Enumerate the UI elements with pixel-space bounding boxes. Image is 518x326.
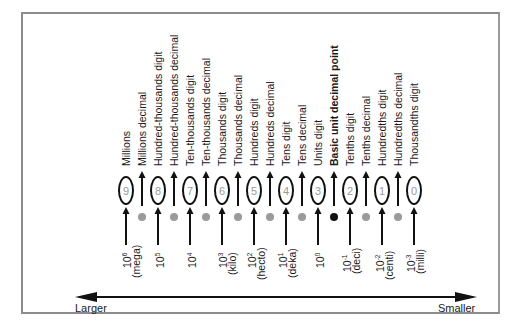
label-millions-decimal: Millions decimal xyxy=(136,92,148,166)
prefix-deci: (deci) xyxy=(351,248,362,274)
label-tens-decimal: Tens decimal xyxy=(296,105,308,166)
decimal-dot-icon xyxy=(266,213,274,221)
prefix-hecto: (hecto) xyxy=(256,247,267,280)
label-thousandths-digit: Thousandths digit xyxy=(408,83,420,166)
digit-oval-5: 5 xyxy=(246,176,262,205)
label-basic-unit-decimal-point: Basic unit decimal point xyxy=(328,45,340,166)
prefix-centi: (centi) xyxy=(384,251,395,280)
decimal-dot-icon xyxy=(202,213,210,221)
smaller-label: Smaller xyxy=(438,302,475,314)
label-hundredths-decimal: Hundredths decimal xyxy=(392,73,404,166)
label-ten-thousands-digit: Ten-thousands digit xyxy=(184,75,196,166)
decimal-dot-icon xyxy=(298,213,306,221)
label-hundredths-digit: Hundredths digit xyxy=(376,90,388,166)
prefix-deka: (deka) xyxy=(287,248,298,278)
decimal-dot-icon xyxy=(362,213,370,221)
arrow-left-icon xyxy=(75,292,97,302)
basic-unit-decimal-point-icon xyxy=(330,213,338,221)
label-hundreds-digit: Hundreds digit xyxy=(248,98,260,166)
arrow-right-icon xyxy=(455,292,477,302)
decimal-dot-icon xyxy=(170,213,178,221)
label-tenths-decimal: Tenths decimal xyxy=(360,96,372,166)
digit-oval-0: 0 xyxy=(406,176,422,205)
label-hundred-thousands-decimal: Hundred-thousands decimal xyxy=(168,35,180,166)
digit-oval-7: 7 xyxy=(182,176,198,205)
label-millions: Millions xyxy=(120,131,132,166)
decimal-dot-icon xyxy=(234,213,242,221)
digit-oval-2: 2 xyxy=(342,176,358,205)
prefix-milli: (milli) xyxy=(415,249,426,274)
label-hundreds-decimal: Hundreds decimal xyxy=(264,81,276,166)
label-thousands-digit: Thousands digit xyxy=(216,92,228,166)
label-thousands-decimal: Thousands decimal xyxy=(232,75,244,166)
exponent-10-5: 105 xyxy=(152,253,166,268)
label-tens-digit: Tens digit xyxy=(280,122,292,166)
digit-oval-8: 8 xyxy=(150,176,166,205)
digit-oval-1: 1 xyxy=(374,176,390,205)
digit-oval-9: 9 xyxy=(118,176,134,205)
decimal-dot-icon xyxy=(138,213,146,221)
label-ten-thousands-decimal: Ten-thousands decimal xyxy=(200,58,212,166)
prefix-mega: (mega) xyxy=(131,245,142,278)
exponent-10-4: 104 xyxy=(184,253,198,268)
digit-oval-6: 6 xyxy=(214,176,230,205)
label-units-digit: Units digit xyxy=(312,120,324,166)
label-tenths-digit: Tenths digit xyxy=(344,113,356,166)
label-hundred-thousands-digit: Hundred-thousands digit xyxy=(152,52,164,166)
exponent-10-0: 100 xyxy=(312,253,326,268)
digit-oval-4: 4 xyxy=(278,176,294,205)
decimal-dot-icon xyxy=(394,213,402,221)
larger-label: Larger xyxy=(75,302,107,314)
digit-oval-3: 3 xyxy=(310,176,326,205)
prefix-kilo: (kilo) xyxy=(227,252,238,275)
